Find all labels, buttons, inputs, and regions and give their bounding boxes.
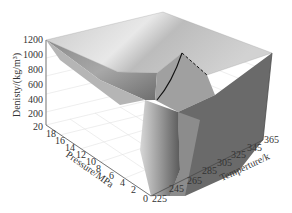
svg-text:365: 365 <box>264 134 279 145</box>
z-axis-label: Denisty/(kg/m³) <box>11 53 23 117</box>
density-surface-chart: 1200 1000 800 600 400 200 20 Denisty/(kg… <box>0 0 292 213</box>
svg-text:305: 305 <box>217 157 232 168</box>
svg-text:2: 2 <box>131 184 136 195</box>
svg-text:225: 225 <box>152 193 167 204</box>
z-axis-ticks: 1200 1000 800 600 400 200 20 <box>23 34 43 132</box>
svg-text:0: 0 <box>143 193 148 204</box>
svg-text:4: 4 <box>120 177 125 188</box>
svg-text:200: 200 <box>28 108 43 119</box>
svg-text:325: 325 <box>231 149 246 160</box>
svg-text:600: 600 <box>28 79 43 90</box>
svg-text:400: 400 <box>28 94 43 105</box>
svg-text:265: 265 <box>187 175 202 186</box>
y-axis-ticks: 18 16 14 12 10 8 6 4 2 0 <box>46 128 148 204</box>
svg-text:245: 245 <box>169 183 184 194</box>
svg-text:345: 345 <box>247 142 262 153</box>
svg-text:20: 20 <box>33 121 43 132</box>
svg-text:1200: 1200 <box>23 34 43 45</box>
svg-text:16: 16 <box>55 135 65 146</box>
svg-text:285: 285 <box>202 165 217 176</box>
svg-text:800: 800 <box>28 64 43 75</box>
svg-text:1000: 1000 <box>23 49 43 60</box>
